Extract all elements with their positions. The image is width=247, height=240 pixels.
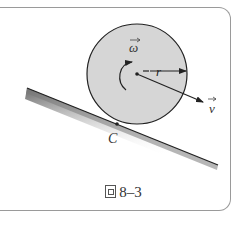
contact-point	[115, 122, 119, 126]
svg-text:ω: ω	[129, 40, 138, 55]
figure-caption: 8–3	[0, 184, 247, 201]
svg-text:v: v	[209, 101, 215, 116]
figure-icon	[105, 185, 116, 198]
contact-point-label: C	[108, 131, 118, 146]
caption-number: 8–3	[119, 184, 142, 200]
velocity-label: v	[208, 97, 216, 116]
